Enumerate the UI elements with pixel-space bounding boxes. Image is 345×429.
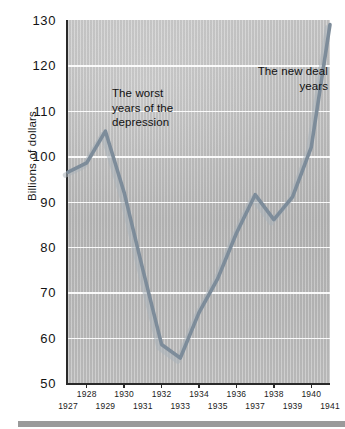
footer-divider-bar bbox=[18, 421, 345, 427]
x-tick-label-1931: 1931 bbox=[133, 401, 153, 411]
x-tick-label-1932: 1932 bbox=[152, 389, 172, 399]
x-tick-mark-1940 bbox=[311, 383, 312, 388]
x-tick-mark-1938 bbox=[273, 383, 274, 388]
x-tick-label-1930: 1930 bbox=[114, 389, 134, 399]
x-tick-label-1933: 1933 bbox=[170, 401, 190, 411]
x-tick-label-1927: 1927 bbox=[58, 401, 78, 411]
x-tick-label-1941: 1941 bbox=[320, 401, 340, 411]
x-tick-mark-1934 bbox=[198, 383, 199, 388]
x-axis-tick-labels: 1927192819291930193119321933193419351936… bbox=[0, 0, 345, 429]
x-tick-mark-1928 bbox=[86, 383, 87, 388]
x-tick-label-1937: 1937 bbox=[245, 401, 265, 411]
x-tick-label-1935: 1935 bbox=[208, 401, 228, 411]
x-tick-mark-1930 bbox=[123, 383, 124, 388]
x-tick-label-1928: 1928 bbox=[77, 389, 97, 399]
x-tick-label-1929: 1929 bbox=[96, 401, 116, 411]
x-tick-mark-1936 bbox=[236, 383, 237, 388]
x-tick-label-1936: 1936 bbox=[227, 389, 247, 399]
chart-figure: Billions of dollars 50607080901001101201… bbox=[0, 0, 345, 429]
x-tick-label-1938: 1938 bbox=[264, 389, 284, 399]
x-tick-mark-1932 bbox=[161, 383, 162, 388]
x-tick-label-1940: 1940 bbox=[301, 389, 321, 399]
x-tick-label-1939: 1939 bbox=[283, 401, 303, 411]
x-tick-label-1934: 1934 bbox=[189, 389, 209, 399]
